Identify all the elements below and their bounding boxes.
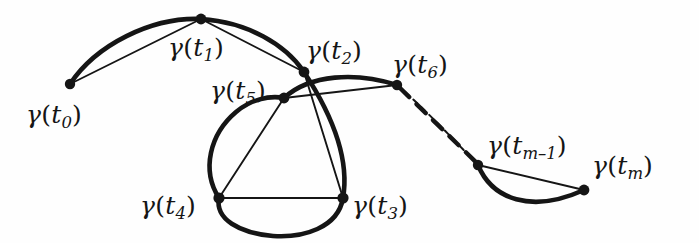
- label-subscript: 3: [387, 204, 398, 223]
- label-subscript: 4: [175, 204, 186, 223]
- arc-t3-t4: [219, 198, 343, 236]
- label-subscript: 6: [427, 63, 438, 82]
- point-t6: [392, 80, 402, 90]
- paren-close: ): [256, 76, 266, 105]
- label-subscript: m: [627, 164, 643, 183]
- label-gamma-tm: γ(tm): [592, 153, 653, 178]
- point-t0: [65, 79, 75, 89]
- point-t3: [337, 192, 348, 203]
- chord-t6-tm1: [400, 88, 481, 167]
- label-gamma-t3: γ(t3): [352, 193, 408, 218]
- gamma-symbol: γ: [140, 191, 155, 220]
- paren-open: (: [155, 191, 165, 220]
- gamma-symbol: γ: [306, 36, 321, 65]
- label-subscript: 2: [341, 49, 352, 68]
- paren-close: ): [186, 191, 196, 220]
- label-subscript: m–1: [522, 144, 556, 163]
- paren-close: ): [214, 33, 224, 62]
- gamma-symbol: γ: [487, 131, 502, 160]
- paren-open: (: [183, 33, 193, 62]
- paren-open: (: [502, 131, 512, 160]
- label-gamma-tm-minus-1: γ(tm–1): [487, 133, 567, 158]
- figure-canvas: [0, 0, 699, 243]
- t-symbol: t: [617, 151, 627, 180]
- t-symbol: t: [193, 33, 203, 62]
- paren-open: (: [225, 76, 235, 105]
- t-symbol: t: [51, 100, 61, 129]
- t-symbol: t: [512, 131, 522, 160]
- label-gamma-t5: γ(t5): [210, 78, 266, 103]
- t-symbol: t: [377, 191, 387, 220]
- gamma-symbol: γ: [592, 151, 607, 180]
- label-gamma-t6: γ(t6): [392, 52, 448, 77]
- arc-t4-t5: [210, 97, 284, 198]
- t-symbol: t: [417, 50, 427, 79]
- paren-open: (: [407, 50, 417, 79]
- point-tm: [579, 185, 590, 196]
- paren-close: ): [398, 191, 408, 220]
- point-t2: [299, 67, 310, 78]
- paren-close: ): [352, 36, 362, 65]
- paren-open: (: [367, 191, 377, 220]
- gamma-symbol: γ: [392, 50, 407, 79]
- gamma-symbol: γ: [26, 100, 41, 129]
- arc-tm1-tm: [478, 165, 584, 202]
- paren-close: ): [72, 100, 82, 129]
- point-t4: [213, 192, 224, 203]
- gamma-symbol: γ: [210, 76, 225, 105]
- gamma-symbol: γ: [352, 191, 367, 220]
- curve-approximation-figure: γ(t0) γ(t1) γ(t2) γ(t5) γ(t6) γ(tm–1) γ(…: [0, 0, 699, 243]
- point-t1: [196, 14, 207, 25]
- t-symbol: t: [331, 36, 341, 65]
- label-subscript: 0: [61, 113, 72, 132]
- t-symbol: t: [165, 191, 175, 220]
- paren-open: (: [607, 151, 617, 180]
- point-t5: [279, 93, 290, 104]
- point-tm1: [473, 160, 483, 170]
- t-symbol: t: [235, 76, 245, 105]
- paren-open: (: [41, 100, 51, 129]
- gamma-symbol: γ: [168, 33, 183, 62]
- label-subscript: 5: [245, 89, 256, 108]
- chord-t4-t5: [219, 98, 284, 198]
- label-subscript: 1: [203, 46, 214, 65]
- label-gamma-t1: γ(t1): [168, 35, 224, 60]
- label-gamma-t2: γ(t2): [306, 38, 362, 63]
- paren-close: ): [438, 50, 448, 79]
- paren-close: ): [557, 131, 567, 160]
- label-gamma-t0: γ(t0): [26, 102, 82, 127]
- label-gamma-t4: γ(t4): [140, 193, 196, 218]
- paren-close: ): [643, 151, 653, 180]
- paren-open: (: [321, 36, 331, 65]
